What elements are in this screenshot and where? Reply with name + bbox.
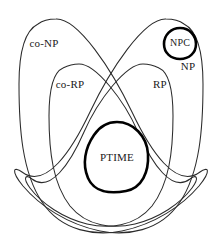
label-np: NP	[181, 60, 195, 72]
label-ptime: PTIME	[100, 151, 134, 163]
label-rp: RP	[153, 78, 167, 90]
venn-diagram-canvas: co-NP co-RP RP NP NPC PTIME	[0, 0, 222, 240]
label-npc: NPC	[170, 37, 190, 48]
label-co-np: co-NP	[29, 37, 58, 49]
complexity-class-diagram: co-NP co-RP RP NP NPC PTIME	[0, 0, 222, 240]
label-co-rp: co-RP	[56, 78, 85, 90]
